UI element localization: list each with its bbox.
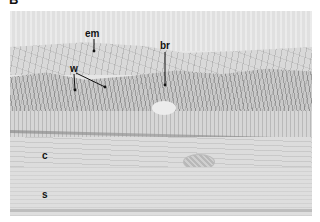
pointer-lines (0, 0, 320, 222)
label-em: em (85, 29, 99, 39)
label-br: br (160, 41, 170, 51)
label-w: w (70, 64, 78, 74)
label-c: c (42, 151, 48, 161)
label-s: s (42, 190, 48, 200)
